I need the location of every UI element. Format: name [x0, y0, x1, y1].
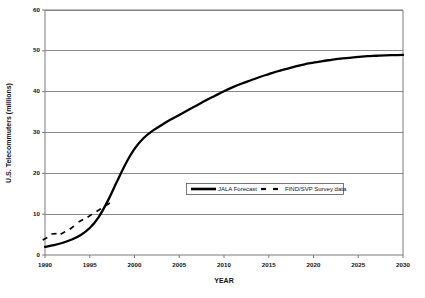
- x-axis-title: YEAR: [214, 277, 233, 284]
- x-tick-label: 2025: [351, 261, 365, 268]
- y-tick-label: 0: [37, 251, 41, 258]
- x-axis-ticks: 199019952000200520102015202020252030: [38, 255, 410, 268]
- legend-label-findsvp-survey: FIND/SVP Survey data: [285, 186, 347, 192]
- x-tick-label: 2020: [307, 261, 321, 268]
- y-tick-label: 20: [33, 169, 40, 176]
- survey-data-dash: [79, 219, 84, 222]
- chart-canvas: 0102030405060 19901995200020052010201520…: [0, 0, 425, 298]
- y-tick-label: 60: [33, 6, 40, 13]
- telecommuters-forecast-chart: 0102030405060 19901995200020052010201520…: [0, 0, 425, 298]
- y-tick-label: 10: [33, 210, 40, 217]
- survey-data-dash: [43, 237, 48, 240]
- x-tick-label: 2015: [262, 261, 276, 268]
- chart-legend: JALA Forecast FIND/SVP Survey data: [187, 184, 347, 195]
- y-tick-label: 50: [33, 46, 40, 53]
- x-tick-label: 2005: [172, 261, 186, 268]
- y-tick-label: 30: [33, 128, 40, 135]
- legend-label-jala-forecast: JALA Forecast: [218, 186, 257, 192]
- y-tick-label: 40: [33, 87, 40, 94]
- survey-data-dash: [70, 226, 74, 229]
- x-tick-label: 2010: [217, 261, 231, 268]
- y-axis-ticks: 0102030405060: [33, 6, 45, 258]
- x-tick-label: 2030: [396, 261, 410, 268]
- y-axis-title: U.S. Telecommuters (millions): [5, 83, 13, 183]
- survey-data-dash: [97, 209, 101, 212]
- series-findsvp-survey: [43, 203, 110, 240]
- survey-data-dash: [88, 214, 92, 217]
- x-tick-label: 1995: [83, 261, 97, 268]
- x-tick-label: 1990: [38, 261, 52, 268]
- series-jala-forecast: [45, 55, 403, 247]
- survey-data-dash: [61, 232, 65, 235]
- x-tick-label: 2000: [128, 261, 142, 268]
